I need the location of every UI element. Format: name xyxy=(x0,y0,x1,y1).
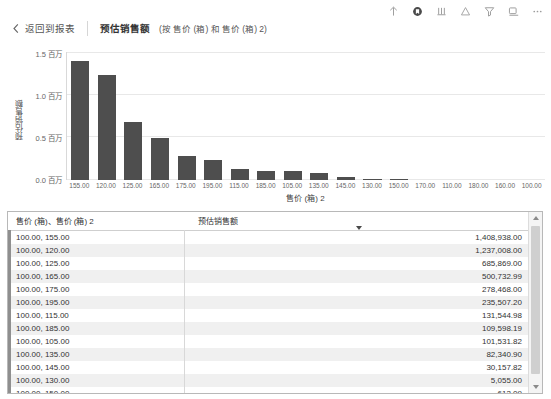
bar-slot[interactable] xyxy=(253,52,280,180)
x-tick-label: 155.00 xyxy=(66,182,93,189)
vertical-scrollbar[interactable] xyxy=(528,212,542,393)
table-cell-key: 100.00, 135.00 xyxy=(8,348,190,361)
table-left-accent xyxy=(8,212,11,393)
table-cell-key: 100.00, 175.00 xyxy=(8,283,190,296)
bookmark-icon[interactable] xyxy=(410,4,425,19)
y-tick-label: 0.5 百万 xyxy=(26,132,62,143)
table-cell-key: 100.00, 115.00 xyxy=(8,309,190,322)
table-row[interactable]: 100.00, 145.0030,157.82 xyxy=(8,361,528,374)
bar[interactable] xyxy=(124,122,142,180)
table-row[interactable]: 100.00, 155.001,408,938.00 xyxy=(8,231,528,245)
page-subtitle: (按 售价 (箱) 和 售价 (箱) 2) xyxy=(159,22,267,34)
bar-chart[interactable]: 预估销售额 1.5 百万 1.0 百万 0.5 百万 0.0 百万 155.00… xyxy=(0,40,551,210)
bar[interactable] xyxy=(178,156,196,180)
table-row[interactable]: 100.00, 185.00109,598.19 xyxy=(8,322,528,335)
export-up-icon[interactable] xyxy=(386,4,401,19)
focus-mode-icon[interactable] xyxy=(506,4,521,19)
table-cell-key: 100.00, 165.00 xyxy=(8,270,190,283)
more-options-icon[interactable] xyxy=(530,4,545,19)
bar[interactable] xyxy=(204,160,222,180)
table-row[interactable]: 100.00, 120.001,237,008.00 xyxy=(8,244,528,257)
x-tick-label: 145.00 xyxy=(332,182,359,189)
table-cell-value: 30,157.82 xyxy=(190,361,528,374)
bar-slot[interactable] xyxy=(386,52,413,180)
table-row[interactable]: 100.00, 105.00101,531.82 xyxy=(8,335,528,348)
bar-slot[interactable] xyxy=(465,52,492,180)
bar-slot[interactable] xyxy=(200,52,227,180)
bar[interactable] xyxy=(98,75,116,180)
table-cell-value: 278,468.00 xyxy=(190,283,528,296)
table-cell-value: 500,732.99 xyxy=(190,270,528,283)
x-tick-label: 165.00 xyxy=(146,182,173,189)
table-cell-key: 100.00, 150.00 xyxy=(8,387,190,393)
table-cell-value: 1,408,938.00 xyxy=(190,231,528,245)
bar-slot[interactable] xyxy=(359,52,386,180)
bar-slot[interactable] xyxy=(519,52,546,180)
y-tick-label: 1.0 百万 xyxy=(26,90,62,101)
x-tick-label: 160.00 xyxy=(492,182,519,189)
table-cell-key: 100.00, 185.00 xyxy=(8,322,190,335)
bar-slot[interactable] xyxy=(147,52,174,180)
bar-slot[interactable] xyxy=(492,52,519,180)
bar[interactable] xyxy=(231,169,249,180)
x-tick-label: 150.00 xyxy=(385,182,412,189)
bar[interactable] xyxy=(71,61,89,180)
table-row[interactable]: 100.00, 135.0082,340.90 xyxy=(8,348,528,361)
bar[interactable] xyxy=(337,177,355,180)
bar[interactable] xyxy=(151,138,169,180)
alert-triangle-icon[interactable] xyxy=(458,4,473,19)
x-tick-label: 185.00 xyxy=(252,182,279,189)
filter-icon[interactable] xyxy=(482,4,497,19)
x-tick-label: 135.00 xyxy=(305,182,332,189)
scroll-down-arrow-icon[interactable] xyxy=(529,381,542,393)
sort-descending-icon xyxy=(356,226,362,230)
table-row[interactable]: 100.00, 125.00685,869.00 xyxy=(8,257,528,270)
bar[interactable] xyxy=(257,171,275,180)
table-column-separator xyxy=(184,212,185,393)
data-table: 售价 (箱)、售价 (箱) 2 预估销售额 100.00, 155.001,40… xyxy=(8,212,528,393)
bar[interactable] xyxy=(363,179,381,180)
bar-slot[interactable] xyxy=(94,52,121,180)
y-tick-label: 0.0 百万 xyxy=(26,174,62,185)
chevron-left-icon xyxy=(12,23,20,34)
bar[interactable] xyxy=(310,173,328,180)
scrollbar-thumb[interactable] xyxy=(531,226,540,374)
table-row[interactable]: 100.00, 150.00612.09 xyxy=(8,387,528,393)
bar[interactable] xyxy=(390,179,408,180)
table-row[interactable]: 100.00, 195.00235,507.20 xyxy=(8,296,528,309)
table-cell-value: 5,055.00 xyxy=(190,374,528,387)
table-cell-key: 100.00, 145.00 xyxy=(8,361,190,374)
table-row[interactable]: 100.00, 115.00131,544.98 xyxy=(8,309,528,322)
table-row[interactable]: 100.00, 130.005,055.00 xyxy=(8,374,528,387)
back-to-report-link[interactable]: 返回到报表 xyxy=(12,21,75,35)
table-cell-value: 82,340.90 xyxy=(190,348,528,361)
bar-slot[interactable] xyxy=(120,52,147,180)
bar[interactable] xyxy=(284,171,302,180)
bar-slot[interactable] xyxy=(412,52,439,180)
table-cell-value: 685,869.00 xyxy=(190,257,528,270)
table-cell-value: 1,237,008.00 xyxy=(190,244,528,257)
scroll-up-arrow-icon[interactable] xyxy=(529,212,542,224)
header-divider xyxy=(87,21,88,36)
column-header-value[interactable]: 预估销售额 xyxy=(190,212,528,231)
column-header-key[interactable]: 售价 (箱)、售价 (箱) 2 xyxy=(8,212,190,231)
bar-slot[interactable] xyxy=(439,52,466,180)
data-table-scroll-region[interactable]: 售价 (箱)、售价 (箱) 2 预估销售额 100.00, 155.001,40… xyxy=(8,212,528,393)
bar-slot[interactable] xyxy=(306,52,333,180)
bar-slot[interactable] xyxy=(333,52,360,180)
table-cell-value: 612.09 xyxy=(190,387,528,393)
table-cell-key: 100.00, 105.00 xyxy=(8,335,190,348)
sort-bars-icon[interactable] xyxy=(434,4,449,19)
bar-slot[interactable] xyxy=(226,52,253,180)
table-cell-key: 100.00, 120.00 xyxy=(8,244,190,257)
y-axis-title: 预估销售额 xyxy=(14,100,25,140)
data-table-panel: 售价 (箱)、售价 (箱) 2 预估销售额 100.00, 155.001,40… xyxy=(7,211,543,394)
bar-slot[interactable] xyxy=(280,52,307,180)
bar-slot[interactable] xyxy=(173,52,200,180)
x-tick-label: 195.00 xyxy=(199,182,226,189)
y-tick-label: 1.5 百万 xyxy=(26,48,62,59)
table-row[interactable]: 100.00, 165.00500,732.99 xyxy=(8,270,528,283)
bar-slot[interactable] xyxy=(67,52,94,180)
table-row[interactable]: 100.00, 175.00278,468.00 xyxy=(8,283,528,296)
x-tick-label: 115.00 xyxy=(226,182,253,189)
